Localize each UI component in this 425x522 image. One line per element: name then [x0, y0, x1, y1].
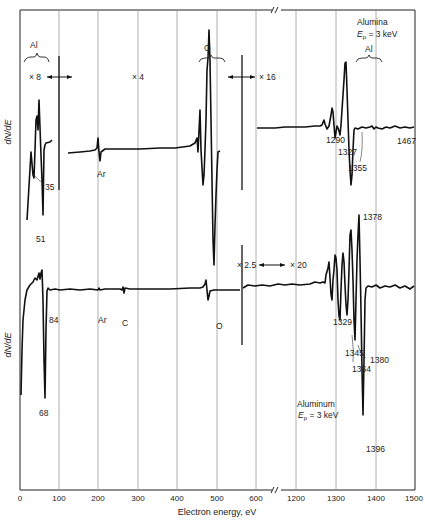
alumina-annotations: Al × 8 × 4 O × 16 Ar 35 51 Alumina Ep = … [24, 17, 416, 244]
x-tick: 600 [249, 494, 263, 503]
axis-break-bottom [271, 487, 278, 493]
label-68: 68 [39, 408, 49, 418]
label-1378: 1378 [363, 212, 382, 222]
scale-x2-5: × 2.5 [237, 260, 256, 270]
bracket-o [199, 55, 225, 62]
plot-frame [20, 10, 415, 490]
label-1355: 1355 [348, 163, 367, 173]
label-o-alumina: O [204, 43, 211, 53]
label-1329: 1329 [333, 317, 352, 327]
axis-break-top [271, 7, 278, 13]
label-1380: 1380 [370, 355, 389, 365]
y-axis-label-bottom: dN/dE [3, 331, 13, 357]
x-tick: 0 [18, 494, 23, 503]
label-sample-alumina: Alumina [357, 17, 388, 27]
label-al-low-alumina: Al [30, 40, 38, 50]
bracket-al-low [24, 53, 49, 62]
leader-1355 [360, 132, 362, 162]
x-tick: 1300 [327, 494, 345, 503]
scale-x20: × 20 [290, 260, 307, 270]
scale-x16: × 16 [259, 72, 276, 82]
x-tick: 400 [170, 494, 184, 503]
label-c-aluminum: C [122, 318, 128, 328]
x-tick-labels: 0 100 200 300 400 500 600 1200 1300 1400… [18, 494, 424, 503]
label-ep-alumina: Ep = 3 keV [357, 29, 398, 40]
x-tick: 200 [91, 494, 105, 503]
scale-x8: × 8 [29, 72, 41, 82]
label-ar-alumina: Ar [97, 169, 106, 179]
y-axis-label-top: dN/dE [3, 118, 13, 144]
label-1290: 1290 [326, 135, 345, 145]
x-tick: 1400 [367, 494, 385, 503]
label-35: 35 [45, 182, 55, 192]
aluminum-trace [21, 215, 414, 415]
label-ar-aluminum: Ar [98, 315, 107, 325]
label-1467: 1467 [397, 136, 416, 146]
aes-spectrum-chart: Al × 8 × 4 O × 16 Ar 35 51 Alumina Ep = … [0, 0, 425, 522]
scale-x4: × 4 [132, 72, 144, 82]
label-o-aluminum: O [216, 321, 223, 331]
label-sample-aluminum: Aluminum [297, 399, 335, 409]
label-ep-aluminum: Ep = 3 keV [298, 410, 339, 421]
label-1396: 1396 [366, 444, 385, 454]
x-tick: 300 [131, 494, 145, 503]
x-tick: 1200 [287, 494, 305, 503]
label-1364: 1364 [352, 364, 371, 374]
arrow-x2-5-x20 [259, 263, 285, 267]
x-axis-label: Electron energy, eV [178, 507, 256, 517]
label-al-high-alumina: Al [365, 44, 373, 54]
bracket-al-high [356, 55, 382, 62]
label-1327: 1327 [338, 147, 357, 157]
x-tick: 500 [210, 494, 224, 503]
x-tick: 100 [52, 494, 66, 503]
label-84: 84 [49, 315, 59, 325]
label-51: 51 [36, 234, 46, 244]
x-tick: 1500 [405, 494, 423, 503]
